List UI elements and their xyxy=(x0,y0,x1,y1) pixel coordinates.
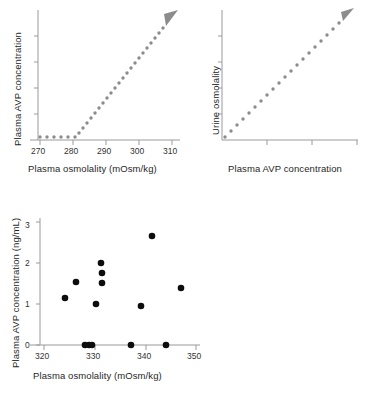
data-point xyxy=(93,301,100,308)
data-point xyxy=(149,233,156,240)
panel-a-xtick-0: 270 xyxy=(31,146,45,156)
panel-b-arrowhead-icon xyxy=(341,8,354,21)
panel-b-dotted-trend-line xyxy=(223,21,340,138)
panel-c-data-points xyxy=(62,233,185,349)
data-point xyxy=(163,342,170,349)
panel-c-ytick-1: 1 xyxy=(25,299,30,309)
data-point xyxy=(128,342,135,349)
panel-c-xtick-0: 320 xyxy=(35,351,49,361)
data-point xyxy=(98,260,105,267)
data-point xyxy=(89,342,96,349)
panel-a-y-axis-title: Plasma AVP concentration xyxy=(12,32,23,146)
panel-a-xtick-1: 280 xyxy=(64,146,78,156)
data-point xyxy=(99,270,106,277)
panel-c-x-axis-title: Plasma osmolality (mOsm/kg) xyxy=(33,370,162,381)
panel-c-plot-area xyxy=(0,190,260,396)
panel-a-xtick-3: 300 xyxy=(130,146,144,156)
panel-c-scatter-avp-vs-osmolality: 3 2 1 0 320 330 340 350 Plasma AVP conce… xyxy=(0,190,260,396)
panel-a-arrowhead-icon xyxy=(164,10,178,26)
panel-c-xtick-2: 340 xyxy=(137,351,151,361)
panel-c-ytick-0: 0 xyxy=(25,340,30,350)
panel-c-y-axis-title: Plasma AVP concentration (ng/mL) xyxy=(10,218,21,368)
data-point xyxy=(62,295,69,302)
panel-a-avp-vs-osmolality: 270 280 290 300 310 Plasma AVP concentra… xyxy=(0,0,200,190)
panel-a-dotted-trend-line xyxy=(38,26,164,138)
panel-a-xtick-4: 310 xyxy=(163,146,177,156)
panel-a-xtick-2: 290 xyxy=(97,146,111,156)
panel-b-x-axis-title: Plasma AVP concentration xyxy=(228,163,342,174)
panel-c-ytick-3: 3 xyxy=(25,220,30,230)
panel-c-ytick-2: 2 xyxy=(25,258,30,268)
panel-b-plot-area xyxy=(200,0,373,190)
panel-c-xtick-3: 350 xyxy=(187,351,201,361)
data-point xyxy=(138,303,145,310)
panel-a-plot-area xyxy=(0,0,200,190)
panel-b-y-axis-title: Urine osmolality xyxy=(210,66,221,135)
panel-b-urine-osmolality-vs-avp: Urine osmolality Plasma AVP concentratio… xyxy=(200,0,373,190)
data-point xyxy=(99,280,106,287)
panel-a-x-axis-title: Plasma osmolality (mOsm/kg) xyxy=(28,163,157,174)
data-point xyxy=(178,285,185,292)
panel-c-xtick-1: 330 xyxy=(86,351,100,361)
data-point xyxy=(73,279,80,286)
